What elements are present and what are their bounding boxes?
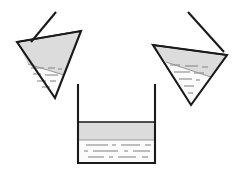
liquid-containers-diagram bbox=[0, 0, 245, 171]
figure-canvas bbox=[0, 0, 245, 171]
beaker-liquid-upper-band bbox=[79, 122, 154, 140]
